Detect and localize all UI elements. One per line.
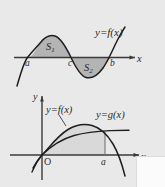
label-curve-g-bottom: y=g(x) (95, 109, 125, 121)
x-axis-arrow-top (130, 56, 136, 60)
label-axis-x-top: x (136, 53, 142, 64)
label-axis-y-bottom: y (32, 91, 38, 102)
label-origin-o: O (44, 156, 51, 167)
label-tick-a-top: a (25, 58, 30, 68)
label-tick-b-top: b (110, 58, 115, 68)
label-curve-f-top: y=f(x) (94, 26, 123, 39)
page-corner (136, 156, 165, 187)
region-between-curves-shade (42, 125, 105, 155)
label-curve-f-bottom: y=f(x) (45, 104, 73, 116)
figure-top: y=f(x) S1 S2 a c b x (0, 0, 165, 92)
y-axis-arrow-bottom (40, 96, 44, 102)
figure-top-canvas: y=f(x) S1 S2 a c b x (0, 0, 165, 92)
figure-page: y=f(x) S1 S2 a c b x y (0, 0, 165, 187)
label-tick-a-bottom: a (101, 157, 106, 167)
leader-line-f (59, 115, 66, 126)
